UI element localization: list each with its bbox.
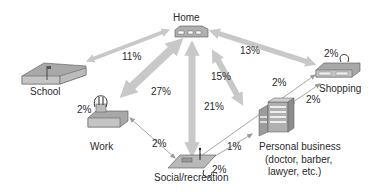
- pct-home-personal: 15%: [211, 71, 231, 82]
- arrow-home-shopping: [214, 32, 311, 63]
- work-icon: [88, 96, 128, 127]
- personal-business-label: Personal business: [259, 141, 341, 152]
- social-self-loop-pct: 2%: [212, 164, 226, 175]
- pct-work-social: 2%: [152, 138, 166, 149]
- personal-business-sublabel-1: (doctor, barber,: [265, 154, 332, 165]
- shopping-label: Shopping: [319, 83, 361, 94]
- pct-home-work: 27%: [151, 86, 171, 97]
- pct-home-shopping: 13%: [240, 45, 260, 56]
- personal-business-sublabel-2: lawyer, etc.): [268, 166, 321, 177]
- shopping-self-loop-pct: 2%: [324, 48, 338, 59]
- work-self-loop-pct: 2%: [77, 104, 91, 115]
- work-label: Work: [90, 141, 113, 152]
- pct-social-shopping: 2%: [272, 77, 286, 88]
- school-label: School: [30, 86, 61, 97]
- home-label: Home: [173, 12, 200, 23]
- pct-home-social: 21%: [204, 101, 224, 112]
- pct-shopping-personal: 2%: [306, 94, 320, 105]
- personal-business-icon: [259, 98, 294, 136]
- pct-social-personal: 1%: [227, 141, 241, 152]
- school-icon: [22, 63, 86, 84]
- pct-home-school: 11%: [122, 51, 141, 62]
- home-icon: [175, 26, 208, 37]
